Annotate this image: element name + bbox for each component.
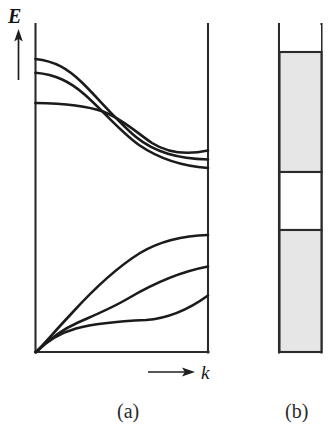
band-region-allowed-lower (280, 230, 322, 352)
energy-axis-arrow-icon (14, 29, 23, 80)
panel-a: E k (7, 5, 210, 383)
wavevector-axis-label: k (201, 362, 210, 383)
conduction-band-curve-3 (36, 103, 209, 153)
band-region-empty-top (280, 25, 321, 52)
caption-panel-b: (b) (285, 400, 308, 423)
band-structure-figure: E k (a) (0, 0, 336, 439)
energy-axis-label: E (7, 5, 21, 27)
wavevector-axis-arrow-icon (148, 368, 195, 377)
panel-b (279, 24, 322, 353)
conduction-band-curve-1 (36, 59, 209, 160)
figure-root: E k (a) (0, 0, 336, 439)
caption-panel-a: (a) (117, 400, 139, 423)
band-region-forbidden-gap (280, 172, 322, 230)
band-region-allowed-upper (280, 52, 322, 172)
